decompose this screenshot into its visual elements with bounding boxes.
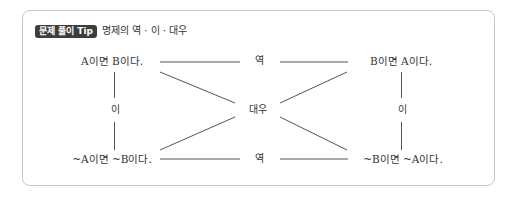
node-inverse: ~A이면 ~B이다. (72, 152, 152, 166)
relation-lines (0, 0, 517, 198)
node-contrapositive: ~B이면 ~A이다. (363, 152, 443, 166)
label-inverse-left: 이 (111, 103, 120, 117)
diag-top-left (160, 72, 235, 103)
label-inverse-right: 이 (398, 103, 407, 117)
diag-bottom-right (280, 117, 347, 150)
node-converse: B이면 A이다. (370, 54, 432, 68)
diag-bottom-left (160, 117, 235, 150)
diag-top-right (280, 72, 347, 103)
label-converse-bottom: 역 (255, 152, 264, 166)
node-original: A이면 B이다. (81, 54, 143, 68)
label-contrapositive: 대우 (249, 103, 267, 117)
label-converse-top: 역 (255, 54, 264, 68)
